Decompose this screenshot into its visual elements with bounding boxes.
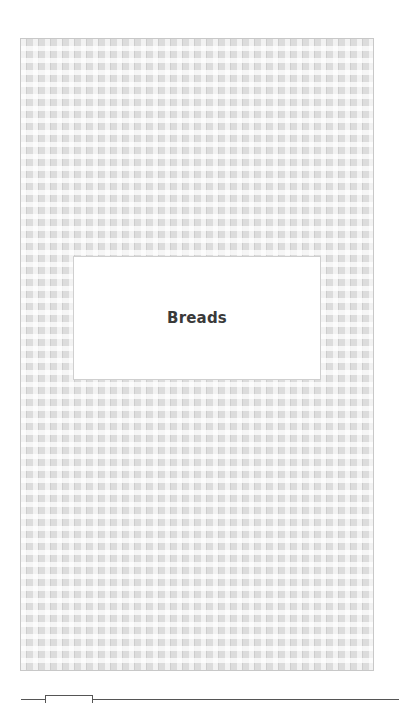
- footer-page-tab: [45, 695, 93, 703]
- page-title: Breads: [167, 309, 227, 327]
- title-box: Breads: [73, 256, 321, 380]
